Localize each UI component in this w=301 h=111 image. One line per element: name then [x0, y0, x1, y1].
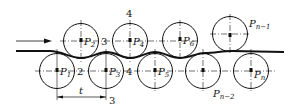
svg-text:P3: P3: [108, 66, 121, 79]
mark-4-top: 4: [126, 8, 132, 19]
mark-2: 2: [77, 66, 83, 77]
roller-Pn-2: Pn−2: [186, 49, 236, 101]
roller-diagram: P2 P4 P6 Pn−1 P1 P3 P5: [0, 0, 301, 111]
mark-3: 3: [101, 36, 107, 47]
roller-P3: P3: [89, 49, 124, 100]
mark-4-bottom: 4: [126, 66, 132, 77]
roller-Pn: Pn: [234, 49, 269, 92]
svg-text:P6: P6: [182, 35, 195, 48]
feed-arrow-icon: [16, 39, 52, 44]
svg-text:P5: P5: [157, 66, 170, 79]
mark-3-bottom: 3: [109, 95, 115, 106]
svg-text:P4: P4: [132, 36, 144, 49]
roller-Pn-1: Pn−1: [210, 14, 271, 54]
svg-text:P1: P1: [59, 66, 71, 79]
svg-text:P2: P2: [83, 36, 96, 49]
svg-text:Pn−1: Pn−1: [248, 18, 271, 31]
svg-text:t: t: [79, 85, 84, 96]
svg-text:Pn−2: Pn−2: [212, 88, 235, 101]
